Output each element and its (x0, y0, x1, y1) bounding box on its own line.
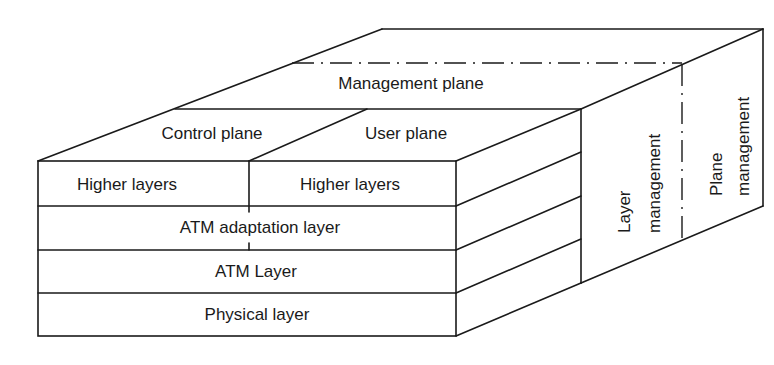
side-edge-top (456, 109, 581, 161)
side-edge-physical (456, 239, 581, 293)
label-atm-adaptation-layer: ATM adaptation layer (180, 218, 341, 237)
cube-right-bottom-diagonal (581, 206, 763, 283)
label-layer-mgmt-line2: management (645, 133, 664, 233)
cube-diagram: Management plane Control plane User plan… (0, 0, 774, 365)
label-atm-layer: ATM Layer (215, 262, 297, 281)
label-control-plane: Control plane (161, 124, 262, 143)
label-plane-mgmt-line2: management (734, 96, 753, 196)
label-higher-layers-user: Higher layers (300, 175, 400, 194)
atm-reference-model-diagram: Management plane Control plane User plan… (0, 0, 774, 365)
side-edge-atm (456, 196, 581, 250)
label-physical-layer: Physical layer (205, 305, 310, 324)
label-user-plane: User plane (365, 124, 447, 143)
side-edge-aal (456, 152, 581, 206)
side-edge-bottom (456, 283, 581, 336)
label-higher-layers-control: Higher layers (77, 175, 177, 194)
label-management-plane: Management plane (338, 74, 484, 93)
label-plane-mgmt-line1: Plane (707, 153, 726, 196)
control-user-top-divider (249, 109, 367, 161)
label-layer-mgmt-line1: Layer (615, 190, 634, 233)
